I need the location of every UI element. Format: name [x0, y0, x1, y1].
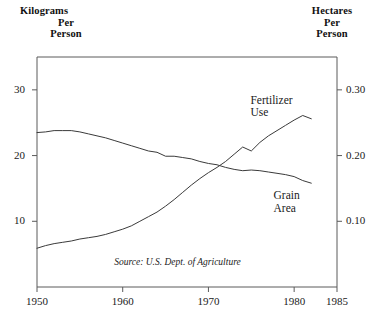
right-tick-label-010: 0.10 [346, 214, 380, 226]
series-label-fertilizer-line-2: Use [250, 106, 292, 119]
left-tick-label-20: 20 [3, 149, 25, 161]
series-label-fertilizer-line-1: Fertilizer [250, 94, 292, 107]
x-tick-label-1950: 1950 [17, 295, 57, 307]
chart-container: Kilograms Per Person Hectares Per Person… [0, 0, 383, 328]
right-tick-label-030: 0.30 [346, 83, 380, 95]
left-tick-label-10: 10 [3, 214, 25, 226]
x-tick-label-1985: 1985 [317, 295, 357, 307]
right-tick-label-020: 0.20 [346, 149, 380, 161]
x-tick-label-1960: 1960 [103, 295, 143, 307]
x-tick-label-1980: 1980 [274, 295, 314, 307]
series-label-grain-line-1: Grain [274, 189, 300, 202]
plot-area [0, 0, 383, 328]
series-lines [37, 115, 311, 248]
left-tick-label-30: 30 [3, 83, 25, 95]
plot-frame [37, 57, 337, 287]
series-label-grain-line-2: Area [274, 202, 300, 215]
series-label-grain-area: Grain Area [274, 189, 300, 214]
source-attribution: Source: U.S. Dept. of Agriculture [114, 257, 241, 267]
series-label-fertilizer-use: Fertilizer Use [250, 94, 292, 119]
x-tick-label-1970: 1970 [188, 295, 228, 307]
